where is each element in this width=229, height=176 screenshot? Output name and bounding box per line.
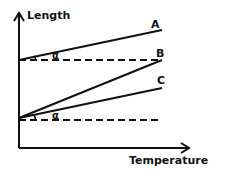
line-b bbox=[19, 60, 162, 118]
angle-label-upper: α bbox=[52, 50, 59, 61]
label-c: C bbox=[157, 74, 165, 87]
label-b: B bbox=[156, 47, 164, 60]
angle-label-lower: α bbox=[52, 110, 59, 121]
line-c bbox=[19, 88, 162, 118]
length-temperature-diagram: Length Temperature A B C α α bbox=[0, 0, 229, 176]
y-axis-label: Length bbox=[27, 9, 70, 22]
label-a: A bbox=[151, 18, 160, 31]
x-axis-label: Temperature bbox=[129, 154, 208, 167]
line-a bbox=[19, 30, 162, 60]
